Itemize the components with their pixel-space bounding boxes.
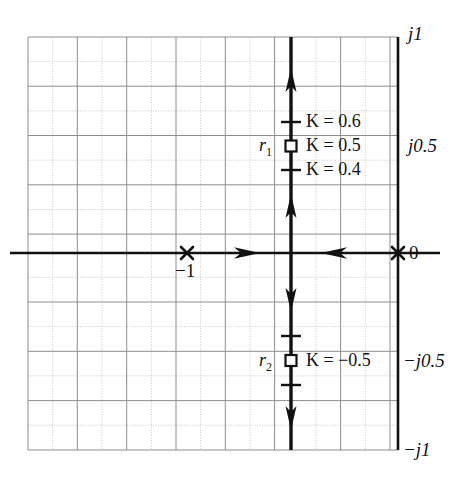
root-marker-r2: [286, 355, 297, 366]
root-label-r2: r2: [259, 351, 272, 373]
root-label-r2-main: r: [259, 350, 266, 370]
imag-tick-label-j1-text: j1: [408, 23, 423, 44]
imag-tick-label-j05-text: j0.5: [408, 135, 437, 156]
gain-label-k05-text: K = 0.5: [306, 135, 361, 155]
pole-label-minus-one: −1: [175, 261, 195, 280]
gain-label-k04-text: K = 0.4: [306, 159, 361, 179]
pole-label-zero: 0: [409, 243, 419, 262]
imag-tick-label-minus-j05-text: −j0.5: [403, 350, 445, 371]
gain-label-k06: K = 0.6: [306, 112, 361, 130]
imag-tick-label-j05: j0.5: [408, 136, 437, 155]
pole-label-minus-one-text: −1: [175, 260, 195, 281]
root-locus-figure: j1 j0.5 0 −j0.5 −j1 −1 K = 0.6 r1 K = 0.…: [0, 0, 474, 502]
root-marker-r1: [286, 141, 297, 152]
root-label-r1: r1: [259, 136, 272, 158]
gain-label-k04: K = 0.4: [306, 160, 361, 178]
root-label-r1-main: r: [259, 135, 266, 155]
gain-label-k06-text: K = 0.6: [306, 111, 361, 131]
imag-tick-label-j1: j1: [408, 24, 423, 43]
plot-canvas: [0, 0, 474, 502]
root-label-r1-sub: 1: [266, 145, 272, 159]
gain-label-k-minus05: K = −0.5: [306, 351, 371, 369]
grid-minor: [28, 37, 398, 450]
gain-label-k05: K = 0.5: [306, 136, 361, 154]
imag-tick-label-minus-j05: −j0.5: [403, 351, 445, 370]
imag-tick-label-minus-j1-text: −j1: [403, 439, 431, 460]
imag-tick-label-minus-j1: −j1: [403, 440, 431, 459]
gain-label-k-minus05-text: K = −0.5: [306, 350, 371, 370]
pole-label-zero-text: 0: [409, 242, 419, 263]
grid-major: [28, 37, 398, 450]
root-label-r2-sub: 2: [266, 360, 272, 374]
